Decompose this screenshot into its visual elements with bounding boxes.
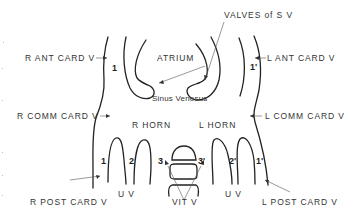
label-vit-v: VIT V [172, 198, 198, 207]
vitelline-loop-middle [170, 164, 197, 179]
label-uv-right: U V [225, 190, 242, 199]
number-l2: 2' [229, 157, 236, 166]
right-horn-loop-2 [134, 140, 151, 184]
number-r3: 3 [158, 157, 163, 166]
number-l3: 3' [198, 157, 205, 166]
diagram-canvas: VALVES of S V ATRIUM Sinus Venosus R ANT… [0, 0, 362, 220]
scan-artifact [2, 195, 3, 196]
label-l-comm-card-v: L COMM CARD V [265, 112, 345, 121]
number-l1-bottom: 1' [256, 157, 263, 166]
label-r-ant-card-v: R ANT CARD V [25, 54, 95, 63]
label-l-post-card-v: L POST CARD V [262, 198, 338, 207]
arrowhead-valve-left [159, 80, 164, 84]
vitelline-bottom-arc [169, 185, 199, 196]
arrowhead-r-post [96, 175, 100, 179]
arrowhead-vit-left [165, 160, 169, 165]
label-atrium: ATRIUM [157, 54, 194, 63]
number-l1-top: 1' [250, 63, 257, 72]
number-r2: 2 [129, 157, 134, 166]
vitelline-loop-top [172, 146, 196, 160]
number-r1-bottom: 1 [101, 157, 106, 166]
right-horn-loop-1 [108, 138, 126, 184]
scan-artifact [2, 175, 3, 176]
left-middle-wall-line [239, 38, 244, 96]
right-inner-wall-line [124, 37, 154, 99]
label-sinus-venosus: Sinus Venosus [152, 95, 208, 103]
arrowhead-l-comm [250, 114, 254, 118]
arrowhead-r-ant [103, 56, 107, 60]
label-l-ant-card-v: L ANT CARD V [267, 54, 335, 63]
arrowhead-l-ant [255, 56, 259, 60]
label-valves-sv: VALVES of S V [224, 11, 293, 20]
label-r-horn: R HORN [132, 121, 171, 130]
label-r-comm-card-v: R COMM CARD V [17, 112, 99, 121]
vein-drawing [0, 0, 362, 220]
label-r-post-card-v: R POST CARD V [30, 198, 108, 207]
scan-artifact [2, 68, 3, 69]
scan-artifact [2, 152, 3, 153]
arrowhead-r-comm [106, 114, 110, 118]
number-r1-top: 1 [112, 64, 117, 73]
left-horn-loop-2 [237, 138, 255, 184]
left-inner-wall-line [187, 37, 220, 100]
scan-artifact [2, 100, 3, 101]
label-uv-left: U V [118, 190, 135, 199]
label-l-horn: L HORN [199, 121, 236, 130]
scan-artifact [3, 42, 4, 43]
